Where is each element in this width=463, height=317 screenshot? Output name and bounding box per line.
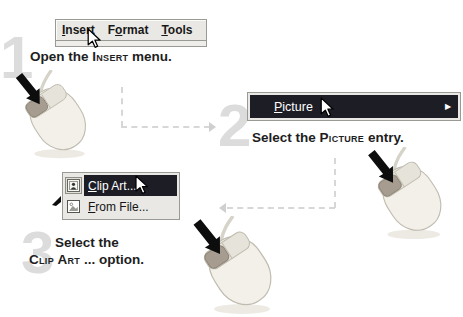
from-file-label-accel: F	[88, 200, 95, 214]
submenu-arrow-icon: ▶	[445, 103, 451, 111]
step-3-caption-line2: Clip Art ... option.	[29, 252, 144, 267]
stray-pointer-icon	[52, 196, 63, 207]
connector-1-vertical	[121, 87, 123, 127]
connector-2-arrow-icon	[219, 203, 226, 213]
caption-keyword: Picture	[320, 130, 365, 145]
connector-1-horizontal	[121, 126, 210, 128]
from-file-label-post: rom File...	[95, 200, 148, 214]
mouse-pointer-icon	[320, 97, 335, 118]
clip-art-label-accel: C	[88, 179, 97, 193]
clip-art-label-post: lip Art...	[97, 179, 137, 193]
connector-1-arrow-icon	[209, 122, 216, 132]
mouse-pointer-icon	[135, 175, 149, 195]
clip-art-gallery-icon	[65, 177, 82, 194]
clipart-submenu-screenshot: Clip Art... From File...	[62, 172, 180, 220]
menu-item-from-file[interactable]: From File...	[65, 196, 177, 217]
caption-post: ... option.	[80, 252, 144, 267]
picture-from-file-icon	[65, 198, 82, 215]
caption-post: menu.	[128, 49, 172, 64]
toolbar-edge	[55, 41, 207, 47]
menu-item-tools[interactable]: Tools	[161, 23, 192, 37]
menu-label-pre: F	[108, 23, 115, 37]
menu-item-picture[interactable]: Picture ▶	[250, 95, 458, 118]
picture-label: Picture	[274, 100, 313, 114]
from-file-label: From File...	[84, 196, 177, 217]
caption-keyword: Insert	[92, 49, 128, 64]
caption-post: entry.	[364, 130, 404, 145]
step-3-caption-line1: Select the	[55, 235, 119, 250]
caption-pre: Open the	[30, 49, 92, 64]
menu-item-format[interactable]: Format	[108, 23, 149, 37]
picture-menu-screenshot: Picture ▶	[247, 92, 461, 121]
connector-2-vertical	[334, 158, 336, 208]
connector-2-horizontal	[227, 207, 335, 209]
step-1-caption: Open the Insert menu.	[30, 49, 172, 64]
menu-label-post: rmat	[122, 23, 148, 37]
menubar: Insert Format Tools	[55, 19, 207, 41]
caption-keyword: Clip Art	[29, 252, 80, 267]
step-2-numeral: 2	[218, 101, 249, 150]
step-2-caption: Select the Picture entry.	[252, 130, 404, 145]
caption-pre: Select the	[252, 130, 320, 145]
menu-item-clip-art[interactable]: Clip Art...	[65, 175, 177, 196]
clip-art-label: Clip Art...	[84, 175, 177, 196]
mouse-illustration-1	[10, 70, 100, 160]
picture-label-post: icture	[282, 100, 313, 114]
menubar-screenshot: Insert Format Tools	[55, 19, 207, 47]
mouse-illustration-2	[362, 147, 456, 241]
tutorial-page: 1 2 3 Insert Format Tools Open the Inser…	[0, 0, 463, 317]
menu-label-post: ools	[168, 23, 193, 37]
mouse-pointer-icon	[87, 28, 102, 49]
mouse-illustration-3	[187, 216, 287, 316]
